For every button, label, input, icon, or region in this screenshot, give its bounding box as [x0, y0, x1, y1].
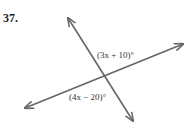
angle-label-lower: (4x − 20)° [69, 92, 106, 102]
angle-label-upper: (3x + 10)° [97, 50, 134, 60]
line-steep [68, 18, 133, 121]
intersecting-lines-diagram [0, 0, 192, 129]
